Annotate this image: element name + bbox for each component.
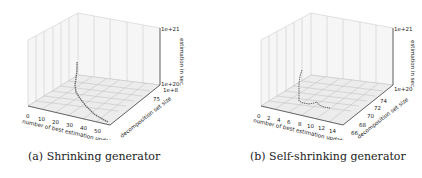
x-tick: 30 — [66, 122, 73, 128]
caption-b: (b) Self-shrinking generator — [250, 150, 406, 163]
plot-3d-b: 1e+21 1e+20 estimation in sec. 0 2 4 6 8… — [211, 0, 422, 140]
x-tick: 40 — [80, 125, 87, 131]
x-tick: 14 — [329, 128, 336, 134]
y-tick: 75 — [153, 96, 160, 102]
z-axis-label: estimation in sec. — [410, 40, 416, 89]
z-tick-top: 1e+21 — [394, 26, 413, 32]
x-tick: 10 — [307, 123, 314, 129]
chart-shrinking-generator: 1e+21 1e+20 1e+8 estimation in sec. 0 10… — [0, 0, 211, 140]
plot-3d-a: 1e+21 1e+20 1e+8 estimation in sec. 0 10… — [0, 0, 211, 140]
y-tick: 74 — [380, 98, 387, 104]
y-tick: 70 — [367, 113, 374, 119]
z-offset: 1e+8 — [163, 87, 178, 93]
caption-a: (a) Shrinking generator — [28, 150, 160, 163]
x-tick: 12 — [318, 125, 325, 131]
x-tick: 8 — [298, 121, 302, 127]
z-axis-label: estimation in sec. — [179, 38, 185, 87]
x-tick: 50 — [94, 128, 101, 134]
y-tick: 72 — [374, 105, 381, 111]
z-tick-top: 1e+21 — [161, 26, 180, 32]
chart-self-shrinking-generator: 1e+21 1e+20 estimation in sec. 0 2 4 6 8… — [211, 0, 422, 140]
